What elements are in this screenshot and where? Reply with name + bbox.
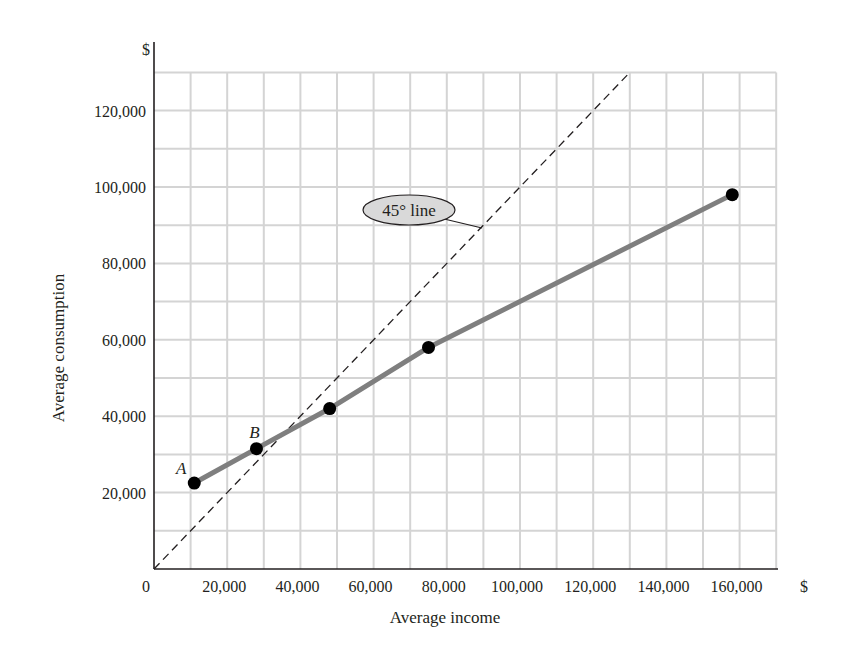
data-point	[422, 341, 435, 354]
x-tick-labels: 020,00040,00060,00080,000100,000120,0001…	[142, 578, 763, 595]
x-tick-label: 0	[142, 578, 150, 595]
y-tick-label: 60,000	[102, 332, 146, 349]
x-tick-label: 60,000	[349, 578, 393, 595]
callout-text: 45° line	[382, 201, 436, 220]
data-point	[188, 477, 201, 490]
y-tick-label: 40,000	[102, 408, 146, 425]
45-degree-line	[154, 72, 630, 569]
x-unit-label: $	[800, 578, 808, 595]
y-unit-label: $	[142, 41, 150, 58]
grid	[154, 72, 776, 569]
point-label-b: B	[249, 423, 260, 442]
data-point	[726, 188, 739, 201]
y-tick-label: 80,000	[102, 255, 146, 272]
x-tick-label: 20,000	[202, 578, 246, 595]
y-tick-label: 20,000	[102, 485, 146, 502]
x-tick-label: 120,000	[564, 578, 616, 595]
x-tick-label: 160,000	[711, 578, 763, 595]
x-tick-label: 40,000	[275, 578, 319, 595]
y-axis-title: Average consumption	[49, 273, 68, 422]
45-line-callout: 45° line	[363, 195, 482, 228]
axes	[154, 42, 778, 569]
y-tick-label: 120,000	[94, 103, 146, 120]
data-point	[250, 442, 263, 455]
x-tick-label: 100,000	[491, 578, 543, 595]
x-axis-title: Average income	[390, 608, 501, 627]
chart: 020,00040,00060,00080,000100,000120,0001…	[0, 0, 854, 666]
y-tick-labels: 20,00040,00060,00080,000100,000120,000	[94, 103, 146, 502]
diagonal-dashed-line	[154, 72, 630, 569]
x-tick-label: 140,000	[637, 578, 689, 595]
y-tick-label: 100,000	[94, 179, 146, 196]
data-point	[323, 402, 336, 415]
x-tick-label: 80,000	[422, 578, 466, 595]
point-label-a: A	[175, 459, 187, 478]
